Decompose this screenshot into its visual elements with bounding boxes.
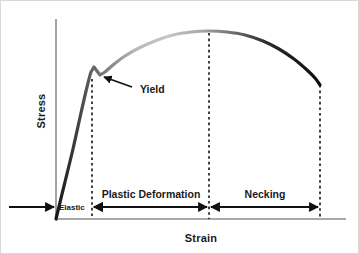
region-label-necking: Necking [245,188,286,200]
region-label-elastic: Elastic [59,203,85,212]
region-label-plastic-deformation: Plastic Deformation [102,188,201,200]
yield-arrow [104,77,132,87]
axis-titles-group: Stress Strain [35,94,217,244]
x-axis-title: Strain [185,232,217,244]
yield-label: Yield [140,83,165,95]
stress-strain-diagram: Yield Elastic Plastic Deformation Neckin… [0,0,359,254]
yield-annotation: Yield [104,77,165,95]
y-axis-title: Stress [35,94,47,129]
region-labels-group: Elastic Plastic Deformation Necking [59,188,285,212]
axes-group [56,19,346,219]
diagram-canvas: Yield Elastic Plastic Deformation Neckin… [1,1,359,254]
